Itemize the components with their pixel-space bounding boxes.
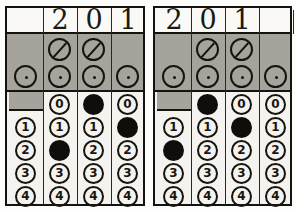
empty-bubble[interactable]: 3 <box>117 163 138 184</box>
empty-bubble[interactable]: 3 <box>197 163 218 184</box>
empty-bubble[interactable]: 0 <box>49 94 70 115</box>
slash-circle-icon[interactable] <box>196 38 219 61</box>
handwritten-digit: 1 <box>225 6 259 34</box>
empty-bubble[interactable]: 1 <box>197 117 218 138</box>
empty-bubble[interactable]: 1 <box>163 117 184 138</box>
empty-bubble[interactable]: 3 <box>15 163 36 184</box>
slash-circle-icon[interactable] <box>82 38 105 61</box>
empty-bubble[interactable]: 0 <box>117 94 138 115</box>
dot-circle-icon[interactable] <box>162 65 185 88</box>
column-separator-rule <box>111 8 112 204</box>
filled-bubble[interactable]: 1 <box>231 117 252 138</box>
right-number-field[interactable]: 2123400123410123401234 <box>153 6 292 206</box>
handwritten-digit: 1 <box>111 6 145 34</box>
empty-bubble[interactable]: 1 <box>83 117 104 138</box>
empty-bubble[interactable]: 2 <box>265 140 286 161</box>
empty-bubble[interactable]: 4 <box>265 186 286 207</box>
empty-bubble[interactable]: 3 <box>49 163 70 184</box>
slash-circle-icon[interactable] <box>230 38 253 61</box>
filled-bubble[interactable]: 0 <box>83 94 104 115</box>
empty-bubble[interactable]: 0 <box>231 94 252 115</box>
empty-bubble[interactable]: 3 <box>231 163 252 184</box>
handwritten-digit: 0 <box>191 6 225 34</box>
empty-bubble[interactable]: 2 <box>117 140 138 161</box>
shaded-column-tail <box>157 92 191 111</box>
empty-bubble[interactable]: 3 <box>265 163 286 184</box>
dot-circle-icon[interactable] <box>264 65 287 88</box>
left-number-field[interactable]: 1234201234001234101234 <box>5 6 145 206</box>
handwritten-digit: 2 <box>157 6 191 34</box>
empty-bubble[interactable]: 2 <box>83 140 104 161</box>
column-separator-rule <box>225 8 226 204</box>
dot-circle-icon[interactable] <box>48 65 71 88</box>
empty-bubble[interactable]: 4 <box>197 186 218 207</box>
filled-bubble[interactable]: 0 <box>197 94 218 115</box>
header-tick-rule <box>293 10 294 34</box>
dot-circle-icon[interactable] <box>196 65 219 88</box>
empty-bubble[interactable]: 2 <box>231 140 252 161</box>
empty-bubble[interactable]: 2 <box>197 140 218 161</box>
column-separator-rule <box>191 8 192 204</box>
empty-bubble[interactable]: 1 <box>265 117 286 138</box>
empty-bubble[interactable]: 1 <box>15 117 36 138</box>
filled-bubble[interactable]: 1 <box>117 117 138 138</box>
panel-inner: 1234201234001234101234 <box>7 8 143 204</box>
handwritten-digit: 2 <box>43 6 77 34</box>
empty-bubble[interactable]: 1 <box>49 117 70 138</box>
empty-bubble[interactable]: 4 <box>49 186 70 207</box>
scanned-form-page: 1234201234001234101234212340012341012340… <box>0 0 296 212</box>
handwritten-digit: 0 <box>77 6 111 34</box>
empty-bubble[interactable]: 2 <box>15 140 36 161</box>
slash-circle-icon[interactable] <box>48 38 71 61</box>
empty-bubble[interactable]: 3 <box>83 163 104 184</box>
dot-circle-icon[interactable] <box>116 65 139 88</box>
column-separator-rule <box>43 8 44 204</box>
filled-bubble[interactable]: 2 <box>163 140 184 161</box>
empty-bubble[interactable]: 4 <box>83 186 104 207</box>
filled-bubble[interactable]: 2 <box>49 140 70 161</box>
dot-circle-icon[interactable] <box>230 65 253 88</box>
shaded-column-tail <box>9 92 43 111</box>
dot-circle-icon[interactable] <box>82 65 105 88</box>
empty-bubble[interactable]: 4 <box>231 186 252 207</box>
column-separator-rule <box>259 8 260 204</box>
empty-bubble[interactable]: 4 <box>15 186 36 207</box>
dot-circle-icon[interactable] <box>14 65 37 88</box>
panel-inner: 2123400123410123401234 <box>155 8 290 204</box>
empty-bubble[interactable]: 4 <box>163 186 184 207</box>
column-separator-rule <box>77 8 78 204</box>
empty-bubble[interactable]: 3 <box>163 163 184 184</box>
empty-bubble[interactable]: 0 <box>265 94 286 115</box>
empty-bubble[interactable]: 4 <box>117 186 138 207</box>
